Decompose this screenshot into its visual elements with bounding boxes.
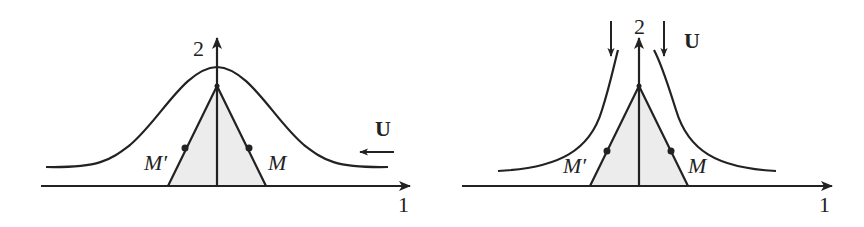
left-panel: 2 1 M′ M U	[41, 36, 410, 217]
apex-point	[215, 84, 220, 89]
right-panel: 2 1 M′ M U	[462, 14, 832, 217]
axis-1-label: 1	[819, 192, 830, 217]
label-m-prime: M′	[562, 153, 587, 178]
axis-2-label: 2	[634, 14, 645, 39]
point-m	[668, 148, 675, 155]
point-m-prime	[182, 145, 189, 152]
flow-label-u: U	[375, 116, 391, 141]
diagram-canvas: 2 1 M′ M U 2 1 M′ M U	[0, 0, 864, 227]
streamline-curve-left	[498, 50, 618, 171]
point-m	[246, 145, 253, 152]
label-m: M	[687, 153, 708, 178]
axis-2-label: 2	[193, 36, 204, 61]
label-m: M	[267, 150, 288, 175]
flow-label-u: U	[684, 28, 700, 53]
point-m-prime	[604, 148, 611, 155]
label-m-prime: M′	[143, 150, 168, 175]
axis-1-label: 1	[398, 192, 409, 217]
apex-point	[637, 84, 642, 89]
